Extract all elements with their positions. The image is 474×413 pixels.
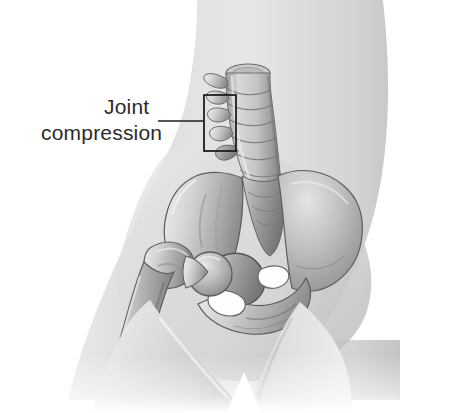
- anatomy-illustration: [0, 0, 474, 413]
- illustration-page: Joint compression: [0, 0, 474, 413]
- annotation-label-line-1: Joint: [104, 96, 149, 117]
- annotation-label-line-2: compression: [41, 122, 162, 143]
